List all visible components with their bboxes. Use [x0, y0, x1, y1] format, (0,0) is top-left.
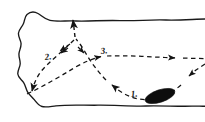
path-1-incoming: [189, 64, 205, 76]
filled-ellipse-group: [143, 85, 176, 106]
junction-up-arrow: [73, 20, 75, 37]
path-label-1: 1.: [130, 89, 137, 99]
figure-container: 1. 2. 3.: [0, 0, 205, 122]
diagram-canvas: 1. 2. 3.: [0, 0, 205, 122]
junction-right-branch-arrow: [78, 47, 84, 53]
path-3-group: [107, 56, 205, 59]
junction-left-branch-arrow: [61, 48, 68, 53]
path-3-line: [107, 56, 175, 58]
path-label-2: 2.: [43, 51, 52, 62]
filled-ellipse: [143, 85, 176, 106]
junction-up-arrow-group: [61, 20, 84, 53]
path-label-3: 3.: [99, 45, 108, 56]
path-3-tail: [183, 58, 205, 59]
path-1-group: [76, 39, 205, 100]
